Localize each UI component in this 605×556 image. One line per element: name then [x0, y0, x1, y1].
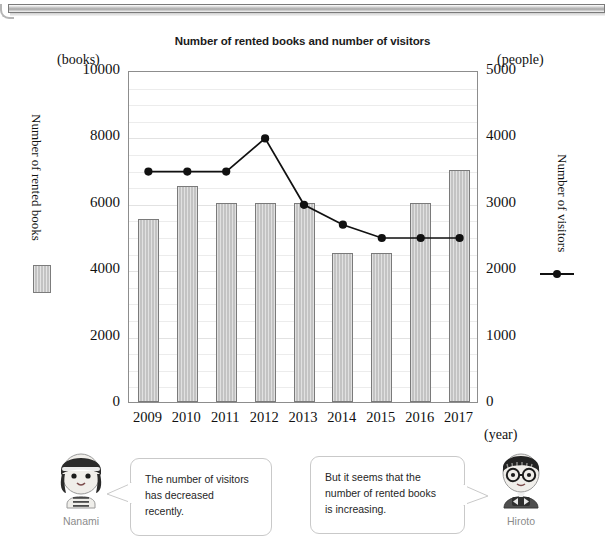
x-tick-2016: 2016	[400, 409, 439, 426]
left-tick-8000: 8000	[58, 127, 120, 144]
bubble-line: But it seems that the	[325, 469, 452, 485]
visitors-point-2015	[378, 234, 386, 242]
speech-bubble-tail-right	[463, 483, 489, 505]
plot-area	[128, 71, 478, 403]
left-tick-10000: 10000	[58, 61, 120, 78]
speech-bubble-nanami: The number of visitors has decreased rec…	[130, 458, 272, 536]
right-tick-2000: 2000	[486, 260, 548, 277]
x-axis-unit-label: (year)	[484, 427, 517, 443]
right-tick-0: 0	[486, 393, 548, 410]
page-edge-underline	[10, 13, 605, 16]
bubble-line: number of rented books	[325, 485, 452, 501]
avatar-name-hiroto: Hiroto	[490, 515, 552, 527]
x-tick-2009: 2009	[128, 409, 167, 426]
x-tick-2017: 2017	[439, 409, 478, 426]
boy-with-glasses-avatar-icon	[493, 448, 549, 510]
x-tick-2010: 2010	[167, 409, 206, 426]
right-tick-3000: 3000	[486, 194, 548, 211]
legend-line-dot-icon	[553, 270, 561, 278]
speech-bubble-hiroto: But it seems that the number of rented b…	[310, 456, 465, 534]
visitors-point-2016	[417, 234, 425, 242]
visitors-point-2013	[300, 201, 308, 209]
right-axis-title: Number of visitors	[554, 154, 570, 252]
bubble-line: is increasing.	[325, 501, 452, 517]
x-tick-2015: 2015	[361, 409, 400, 426]
speech-bubble-tail-left	[106, 481, 132, 503]
visitors-point-2014	[339, 221, 347, 229]
right-tick-5000: 5000	[486, 61, 548, 78]
girl-avatar-icon	[53, 448, 109, 510]
line-series	[129, 72, 479, 404]
bubble-line: recently.	[145, 503, 259, 519]
page-curl-icon	[0, 4, 14, 19]
left-tick-0: 0	[58, 393, 120, 410]
dialogue-row: Nanami The number of visitors has decrea…	[0, 444, 605, 556]
right-tick-4000: 4000	[486, 127, 548, 144]
page-edge-strip	[8, 4, 605, 13]
x-tick-2012: 2012	[245, 409, 284, 426]
avatar-hiroto: Hiroto	[490, 448, 552, 527]
x-tick-2011: 2011	[206, 409, 245, 426]
chart-title: Number of rented books and number of vis…	[0, 35, 605, 47]
left-tick-4000: 4000	[58, 260, 120, 277]
bubble-line: The number of visitors	[145, 471, 259, 487]
visitors-point-2010	[183, 168, 191, 176]
left-tick-2000: 2000	[58, 327, 120, 344]
chart-figure: Number of rented books and number of vis…	[0, 26, 605, 446]
left-axis-title: Number of rented books	[28, 114, 44, 241]
left-tick-6000: 6000	[58, 194, 120, 211]
x-tick-2013: 2013	[284, 409, 323, 426]
visitors-point-2017	[456, 234, 464, 242]
right-tick-1000: 1000	[486, 327, 548, 344]
page-edge-shadow	[0, 0, 605, 22]
legend-swatch-texture	[34, 266, 50, 292]
visitors-point-2009	[144, 168, 152, 176]
bubble-line: has decreased	[145, 487, 259, 503]
visitors-point-2012	[261, 134, 269, 142]
x-tick-2014: 2014	[322, 409, 361, 426]
visitors-line-path	[148, 138, 459, 238]
visitors-point-2011	[222, 168, 230, 176]
avatar-nanami: Nanami	[50, 448, 112, 527]
legend-swatch-rented-books	[33, 265, 51, 293]
avatar-name-nanami: Nanami	[50, 515, 112, 527]
